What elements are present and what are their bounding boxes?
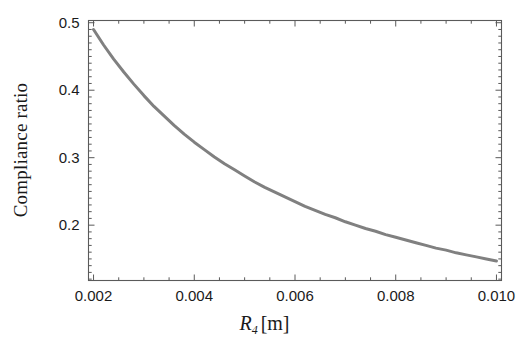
y-axis-title-container: Compliance ratio [7,34,35,266]
chart-figure: Compliance ratio R4[m] 0.20.30.40.50.002… [0,0,529,352]
x-axis-tick-label: 0.002 [54,288,134,303]
x-axis-title-subscript: 4 [252,323,258,337]
x-axis-tick-label: 0.008 [356,288,436,303]
x-axis-title-symbol: R [239,312,251,334]
x-axis-title-units: [m] [261,312,290,334]
y-axis-tick-label: 0.5 [59,15,80,30]
plot-frame [89,21,502,281]
y-axis-title: Compliance ratio [10,83,32,218]
y-axis-tick-label: 0.4 [59,82,80,97]
y-axis-tick-label: 0.3 [59,150,80,165]
y-axis-tick-label: 0.2 [59,217,80,232]
data-curve-compliance-ratio [94,29,497,260]
x-axis-tick-label: 0.010 [456,288,529,303]
x-axis-tick-label: 0.004 [154,288,234,303]
x-axis-title: R4[m] [0,312,529,338]
x-axis-tick-label: 0.006 [255,288,335,303]
